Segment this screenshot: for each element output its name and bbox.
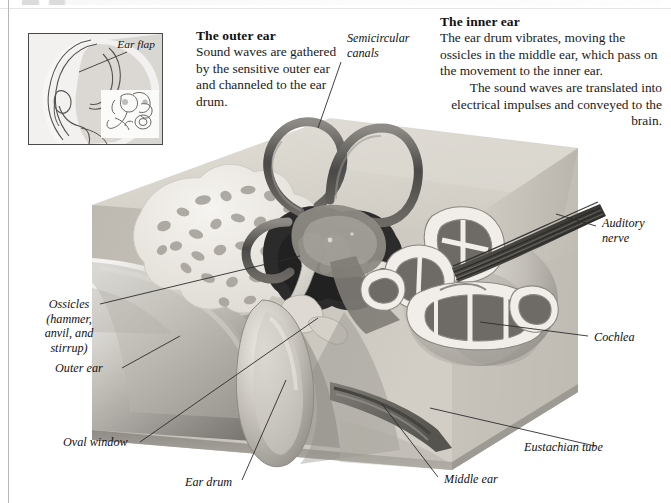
head-profile-drawing: [29, 34, 162, 144]
callout-ossicles: Ossicles (hammer, anvil, and stirrup): [34, 297, 104, 355]
outer-ear-body: Sound waves are gathered by the sensitiv…: [196, 44, 346, 110]
inner-ear-body-right: The sound waves are translated into elec…: [440, 80, 662, 130]
head-profile-inset: Ear flap: [28, 33, 163, 145]
callout-middle-ear: Middle ear: [444, 472, 498, 487]
ear-flap-label: Ear flap: [117, 38, 155, 50]
inner-ear-body-left: The ear drum vibrates, moving the ossicl…: [440, 30, 662, 80]
callout-oval-window: Oval window: [63, 435, 128, 450]
callout-cochlea: Cochlea: [594, 330, 635, 345]
callout-outer-ear: Outer ear: [55, 361, 103, 376]
callout-auditory-nerve: Auditory nerve: [602, 216, 645, 245]
inner-ear-heading: The inner ear: [440, 14, 520, 30]
outer-ear-heading: The outer ear: [196, 28, 276, 44]
callout-eustachian-tube: Eustachian tube: [524, 440, 603, 455]
callout-ear-drum: Ear drum: [185, 475, 232, 490]
callout-semicircular-canals: Semicircular canals: [347, 31, 410, 60]
figure-page: Ear flap The outer ear Sound waves are g…: [0, 0, 671, 503]
